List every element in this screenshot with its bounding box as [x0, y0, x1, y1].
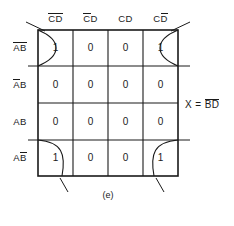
row-header-3: AB [4, 152, 36, 163]
column-header-3: CD [143, 13, 178, 24]
kmap-cell-r2c0: 0 [38, 116, 73, 128]
kmap-cell-r0c3: 1 [143, 42, 178, 54]
kmap-text-layer: CD CD CD CD AB AB AB AB 1 0 0 1 0 0 0 0 … [0, 0, 234, 226]
kmap-cell-r2c2: 0 [108, 116, 143, 128]
kmap-cell-r0c1: 0 [73, 42, 108, 54]
kmap-cell-r2c1: 0 [73, 116, 108, 128]
kmap-cell-r1c3: 0 [143, 79, 178, 91]
column-header-1: CD [73, 13, 108, 24]
kmap-cell-r1c1: 0 [73, 79, 108, 91]
figure-caption: (e) [0, 190, 216, 201]
equation-term-0: B [205, 99, 212, 110]
kmap-cell-r2c3: 0 [143, 116, 178, 128]
row-header-2: AB [4, 116, 36, 127]
kmap-cell-r3c1: 0 [73, 152, 108, 164]
row-header-1: AB [4, 79, 36, 90]
kmap-cell-r1c0: 0 [38, 79, 73, 91]
column-header-2: CD [108, 13, 143, 24]
kmap-cell-r3c2: 0 [108, 152, 143, 164]
kmap-cell-r0c2: 0 [108, 42, 143, 54]
kmap-cell-r3c3: 1 [143, 152, 178, 164]
kmap-cell-r1c2: 0 [108, 79, 143, 91]
kmap-cell-r0c0: 1 [38, 42, 73, 54]
kmap-cell-r3c0: 1 [38, 152, 73, 164]
row-header-0: AB [4, 42, 36, 53]
column-header-0: CD [38, 13, 73, 24]
equation-term-1: D [212, 99, 220, 110]
karnaugh-map-figure: CD CD CD CD AB AB AB AB 1 0 0 1 0 0 0 0 … [0, 0, 234, 226]
result-equation: X = BD [185, 99, 219, 111]
